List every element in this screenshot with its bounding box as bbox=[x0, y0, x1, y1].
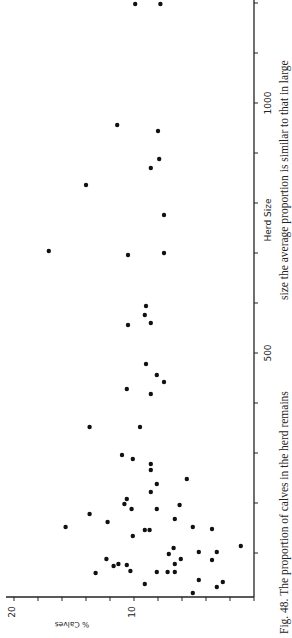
data-point bbox=[155, 482, 159, 486]
data-point bbox=[144, 304, 148, 308]
data-point bbox=[126, 253, 130, 257]
data-point bbox=[149, 490, 153, 494]
data-point bbox=[155, 507, 159, 511]
data-point bbox=[171, 546, 175, 550]
data-point bbox=[191, 525, 195, 529]
data-point bbox=[125, 563, 129, 567]
data-point bbox=[149, 468, 153, 472]
x-tick-label-500: 500 bbox=[263, 344, 273, 361]
data-point bbox=[156, 129, 160, 133]
data-point bbox=[173, 517, 177, 521]
data-point bbox=[143, 313, 147, 317]
data-point bbox=[149, 166, 153, 170]
data-point bbox=[128, 569, 132, 573]
data-point bbox=[143, 528, 147, 532]
data-point bbox=[173, 562, 177, 566]
x-axis-title: Herd Size bbox=[263, 198, 273, 241]
data-point bbox=[162, 380, 166, 384]
data-point bbox=[215, 550, 219, 554]
data-point bbox=[138, 425, 142, 429]
data-point bbox=[158, 2, 162, 6]
data-point bbox=[167, 552, 171, 556]
data-point bbox=[126, 323, 130, 327]
scatter-plot: 500 1000 Herd Size 20 10 % Calves Fig. 4… bbox=[0, 0, 292, 638]
data-point bbox=[173, 570, 177, 574]
data-point bbox=[131, 534, 135, 538]
data-point bbox=[155, 570, 159, 574]
data-point bbox=[63, 525, 67, 529]
scatter-figure: 500 1000 Herd Size 20 10 % Calves Fig. 4… bbox=[0, 0, 292, 638]
data-point bbox=[162, 251, 166, 255]
data-point bbox=[84, 183, 88, 187]
data-point bbox=[125, 497, 129, 501]
data-point bbox=[116, 562, 120, 566]
data-point bbox=[157, 157, 161, 161]
data-point bbox=[155, 373, 159, 377]
data-point bbox=[197, 550, 201, 554]
figure-caption: Fig. 48. The proportion of calves in the… bbox=[278, 391, 291, 634]
data-point bbox=[179, 557, 183, 561]
data-point bbox=[165, 570, 169, 574]
data-point bbox=[129, 507, 133, 511]
data-point bbox=[215, 585, 219, 589]
data-point bbox=[131, 457, 135, 461]
data-point bbox=[149, 392, 153, 396]
data-point bbox=[221, 580, 225, 584]
data-point bbox=[162, 213, 166, 217]
y-axis-title: % Calves bbox=[55, 620, 89, 629]
data-point bbox=[104, 557, 108, 561]
figure-caption-continued: size the average proportion is similar t… bbox=[278, 60, 291, 300]
data-point bbox=[191, 591, 195, 595]
y-tick-label-10: 10 bbox=[127, 606, 137, 618]
data-point bbox=[87, 512, 91, 516]
data-point bbox=[111, 564, 115, 568]
data-point bbox=[87, 425, 91, 429]
data-point bbox=[239, 544, 243, 548]
y-tick-label-20: 20 bbox=[7, 606, 17, 618]
data-point bbox=[143, 582, 147, 586]
data-point bbox=[149, 462, 153, 466]
data-point bbox=[47, 249, 51, 253]
data-point bbox=[177, 503, 181, 507]
data-point bbox=[210, 527, 214, 531]
x-tick-label-1000: 1000 bbox=[263, 91, 273, 114]
data-point bbox=[105, 520, 109, 524]
data-point bbox=[185, 477, 189, 481]
data-point bbox=[144, 362, 148, 366]
data-point bbox=[133, 2, 137, 6]
data-point bbox=[93, 571, 97, 575]
data-points bbox=[47, 2, 243, 595]
data-point bbox=[122, 502, 126, 506]
data-point bbox=[149, 321, 153, 325]
data-point bbox=[120, 453, 124, 457]
data-point bbox=[125, 387, 129, 391]
data-point bbox=[210, 558, 214, 562]
data-point bbox=[147, 528, 151, 532]
data-point bbox=[197, 578, 201, 582]
data-point bbox=[115, 123, 119, 127]
